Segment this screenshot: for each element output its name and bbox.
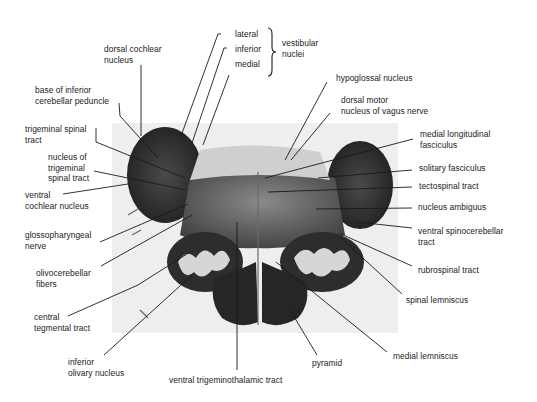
label-base-inferior-cerebellar-peduncle: base of inferior cerebellar peduncle	[35, 85, 109, 106]
label-central-tegmental-tract: central tegmental tract	[34, 312, 90, 333]
label-ventral-cochlear-nucleus: ventral cochlear nucleus	[25, 190, 89, 211]
label-inferior-olivary-nucleus: inferior olivary nucleus	[68, 357, 124, 378]
label-ventral-spinocerebellar-tract: ventral spinocerebellar tract	[418, 226, 503, 247]
label-dorsal-motor-nucleus-vagus: dorsal motor nucleus of vagus nerve	[341, 95, 428, 116]
label-medial-lemniscus: medial lemniscus	[393, 351, 458, 362]
label-inferior: inferior	[235, 44, 261, 55]
label-spinal-lemniscus: spinal lemniscus	[406, 295, 468, 306]
label-lateral: lateral	[235, 29, 258, 40]
label-hypoglossal-nucleus: hypoglossal nucleus	[336, 73, 412, 84]
label-ventral-trigeminothalamic-tract: ventral trigeminothalamic tract	[169, 375, 282, 386]
label-pyramid: pyramid	[312, 358, 342, 369]
label-solitary-fasciculus: solitary fasciculus	[419, 163, 486, 174]
label-glossopharyngeal-nerve: glossopharyngeal nerve	[25, 230, 91, 251]
label-rubrospinal-tract: rubrospinal tract	[418, 265, 479, 276]
label-medial: medial	[235, 59, 260, 70]
label-olivocerebellar-fibers: olivocerebellar fibers	[36, 268, 91, 289]
label-tectospinal-tract: tectospinal tract	[419, 181, 479, 192]
label-trigeminal-spinal-tract: trigeminal spinal tract	[25, 124, 86, 145]
label-nucleus-ambiguus: nucleus ambiguus	[418, 202, 486, 213]
medulla-section-figure: dorsal cochlear nucleus lateral inferior…	[0, 0, 537, 402]
label-nucleus-trigeminal-spinal-tract: nucleus of trigeminal spinal tract	[48, 152, 89, 184]
label-medial-longitudinal-fasciculus: medial longitudinal fasciculus	[420, 129, 490, 150]
label-dorsal-cochlear-nucleus: dorsal cochlear nucleus	[104, 44, 162, 65]
label-vestibular-nuclei: vestibular nuclei	[282, 38, 318, 59]
